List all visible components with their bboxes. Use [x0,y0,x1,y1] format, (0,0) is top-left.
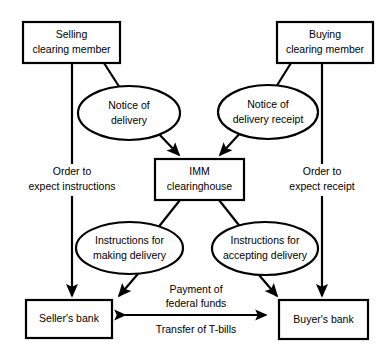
buying-clearing-member-label-line2: clearing member [286,43,365,55]
selling-clearing-member-label-line2: clearing member [32,43,111,55]
instructions-making-delivery-label-line1: Instructions for [95,234,164,246]
order-to-expect-instructions-line2: expect instructions [29,180,116,192]
notice-of-delivery-label-line2: delivery [111,114,148,126]
node-instructions-accepting-delivery: Instructions for accepting delivery [212,222,318,275]
order-to-expect-receipt-line2: expect receipt [289,180,354,192]
sellers-bank-label: Seller's bank [39,312,100,324]
node-imm-clearinghouse: IMM clearinghouse [155,159,244,200]
edge-selling-member-to-notice-of-delivery [104,63,120,88]
order-to-expect-instructions-line1: Order to [53,165,92,177]
transfer-of-t-bills-line1: Transfer of T-bills [156,323,237,335]
instructions-making-delivery-label-line2: making delivery [93,249,167,261]
edge-label-order-to-expect-instructions: Order to expect instructions [14,164,130,196]
node-selling-clearing-member: Selling clearing member [23,22,120,63]
order-to-expect-receipt-line1: Order to [303,165,342,177]
notice-of-delivery-label-line1: Notice of [108,99,150,111]
edge-buying-member-to-notice-of-delivery-receipt [276,63,291,87]
node-instructions-making-delivery: Instructions for making delivery [76,222,183,274]
instructions-accepting-delivery-label-line2: accepting delivery [223,249,308,261]
node-notice-of-delivery-receipt: Notice of delivery receipt [218,85,318,139]
edge-label-order-to-expect-receipt: Order to expect receipt [274,164,371,196]
instructions-accepting-delivery-label-line1: Instructions for [231,234,300,246]
edge-label-transfer-of-t-bills: Transfer of T-bills [156,323,237,335]
node-buying-clearing-member: Buying clearing member [277,22,373,63]
edge-label-payment-of-federal-funds: Payment of federal funds [166,283,227,309]
notice-of-delivery-receipt-label-line1: Notice of [247,98,289,110]
node-sellers-bank: Seller's bank [26,300,112,338]
node-notice-of-delivery: Notice of delivery [78,86,180,140]
diagram-canvas: Selling clearing member Buying clearing … [0,0,391,357]
payment-of-federal-funds-line2: federal funds [166,297,227,309]
edge-imm-to-instructions-making-delivery [157,200,180,229]
notice-of-delivery-receipt-label-line2: delivery receipt [233,113,304,125]
flow-diagram: Selling clearing member Buying clearing … [0,0,391,357]
selling-clearing-member-label-line1: Selling [56,28,88,40]
buying-clearing-member-label-line1: Buying [309,28,341,40]
payment-of-federal-funds-line1: Payment of [169,283,222,295]
imm-clearinghouse-label-line1: IMM [189,165,209,177]
node-buyers-bank: Buyer's bank [279,300,368,339]
imm-clearinghouse-label-line2: clearinghouse [167,180,233,192]
buyers-bank-label: Buyer's bank [293,313,354,325]
